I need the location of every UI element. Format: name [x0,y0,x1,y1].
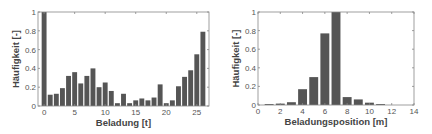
x-tick-label: 14 [410,107,419,116]
x-tick-label: 0 [256,107,261,116]
bar [91,68,96,106]
bar [72,72,77,106]
bar [78,83,83,106]
x-tick-label: 6 [323,107,328,116]
x-tick-label: 2 [278,107,283,116]
x-axis-label: Beladungsposition [m] [285,116,388,127]
x-tick-label: 15 [131,108,140,117]
bar [287,102,296,105]
bar [109,91,114,106]
y-tick-label: 0.2 [25,83,37,92]
bar [320,33,329,105]
bar [60,88,65,106]
bar [127,103,132,106]
figure: 00.20.40.60.810510152025Beladung [t]Häuf… [0,0,432,134]
bar [145,100,150,106]
x-axis-label: Beladung [t] [96,117,151,128]
y-tick-label: 1 [32,8,37,17]
y-tick-label: 0 [32,102,37,111]
bar [200,32,205,106]
y-tick-label: 0.8 [25,27,37,36]
x-tick-label: 8 [345,107,350,116]
bar [332,12,341,105]
y-tick-label: 1 [252,8,257,17]
bar-series [265,12,385,105]
x-tick-label: 10 [365,107,374,116]
x-tick-label: 10 [101,108,110,117]
x-tick-label: 12 [387,107,396,116]
x-tick-label: 4 [300,107,305,116]
bar [97,87,102,106]
bar [139,98,144,106]
bar [152,98,157,106]
bar [354,99,363,105]
y-tick-label: 0.8 [245,27,257,36]
x-tick-label: 25 [192,108,201,117]
bar [84,76,89,106]
y-tick-label: 0.6 [25,46,37,55]
y-tick-label: 0.6 [245,45,257,54]
bar [121,94,126,106]
bar [115,103,120,106]
bar-series [42,12,206,106]
bar [158,84,163,106]
bar [42,12,47,106]
chart-beladung-histogram: 00.20.40.60.810510152025Beladung [t]Häuf… [0,0,216,134]
bar [298,89,307,105]
bar [170,100,175,106]
x-tick-label: 20 [162,108,171,117]
bar [182,77,187,106]
y-axis-label: Häufigkeit [-] [10,30,21,88]
bar [103,83,108,107]
bar [48,95,53,106]
bar [66,76,71,106]
y-axis-label: Häufigkeit [-] [230,29,241,87]
bar [176,86,181,106]
bar [54,94,59,106]
y-tick-label: 0.4 [25,64,37,73]
bar [309,77,318,105]
x-tick-label: 5 [72,108,77,117]
bar [188,70,193,106]
y-tick-label: 0.4 [245,64,257,73]
bar [194,54,199,106]
chart-beladungsposition-histogram: 00.20.40.60.8102468101214Beladungspositi… [216,0,432,134]
x-tick-label: 0 [42,108,47,117]
y-tick-label: 0.2 [245,82,257,91]
